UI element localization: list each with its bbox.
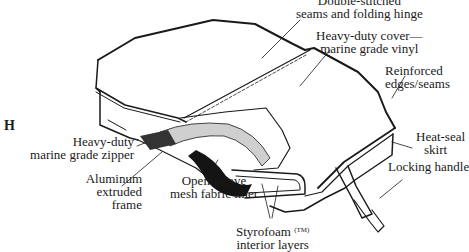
label-skirt: Heat-seal skirt xyxy=(416,130,465,156)
label-cover: Heavy-duty cover— marine grade vinyl xyxy=(316,29,423,55)
label-foam: Styrofoam (TM) interior layers xyxy=(236,224,309,251)
figure-letter: H xyxy=(4,118,15,134)
label-edges: Reinforced edges/seams xyxy=(385,64,450,90)
label-seams: Double-stitched seams and folding hinge xyxy=(296,0,423,20)
label-frame: Aluminum extruded frame xyxy=(60,172,142,211)
label-liner: Open weave mesh fabric liner xyxy=(170,174,258,200)
label-zipper: Heavy-duty marine grade zipper xyxy=(28,135,134,161)
label-handle: Locking handle xyxy=(388,160,469,173)
